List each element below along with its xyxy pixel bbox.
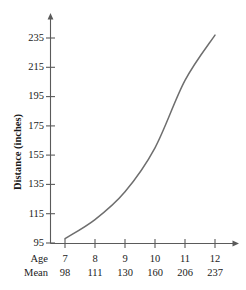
x-tick-label: 10 [140, 254, 170, 265]
mean-value-label: 237 [200, 268, 230, 279]
y-tick-label: 215 [14, 62, 44, 73]
mean-value-label: 160 [140, 268, 170, 279]
x-tick-label: 9 [110, 254, 140, 265]
y-tick-label: 195 [14, 91, 44, 102]
mean-value-label: 111 [80, 268, 110, 279]
mean-value-label: 98 [50, 268, 80, 279]
y-axis-title: Distance (inches) [13, 114, 24, 190]
x-tick-label: 12 [200, 254, 230, 265]
x-tick-label: 8 [80, 254, 110, 265]
y-tick-label: 115 [14, 209, 44, 220]
x-axis-arrow [233, 241, 240, 247]
x-axis-title: Age [4, 254, 48, 265]
x-tick-label: 7 [50, 254, 80, 265]
mean-value-label: 130 [110, 268, 140, 279]
mean-row-label: Mean [4, 268, 48, 279]
y-tick-label: 95 [14, 238, 44, 249]
data-line-series [65, 35, 215, 239]
mean-value-label: 206 [170, 268, 200, 279]
chart-figure: 235 215 195 175 155 135 115 95 Distance … [0, 0, 246, 290]
y-axis-arrow [48, 13, 54, 20]
x-tick-label: 11 [170, 254, 200, 265]
y-tick-label: 235 [14, 33, 44, 44]
